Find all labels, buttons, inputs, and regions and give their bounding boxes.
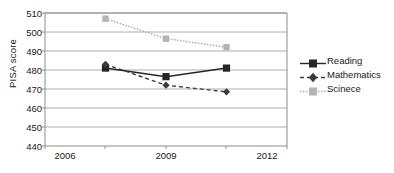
legend-label-mathematics: Mathematics [327, 69, 381, 80]
series-line [106, 19, 227, 48]
legend-label-science: Scinece [327, 83, 361, 94]
legend-marker-science-icon [300, 83, 326, 94]
legend-marker-reading-icon [300, 55, 326, 66]
chart-legend: Reading Mathematics Scinece [300, 54, 381, 95]
data-point-marker [102, 16, 108, 22]
legend-item-mathematics[interactable]: Mathematics [300, 68, 381, 81]
series-scinece [102, 16, 229, 51]
pisa-score-line-chart: PISA score 510 500 490 480 470 460 450 4… [0, 0, 394, 173]
gridlines [45, 13, 287, 127]
data-point-marker [162, 73, 169, 80]
series-reading [102, 65, 230, 81]
data-point-marker [163, 35, 169, 41]
legend-item-reading[interactable]: Reading [300, 54, 381, 67]
legend-item-science[interactable]: Scinece [300, 82, 381, 95]
data-point-marker [162, 82, 169, 89]
legend-marker-mathematics-icon [300, 69, 326, 80]
data-series-layer [102, 16, 230, 96]
data-point-marker [223, 65, 230, 72]
data-point-marker [223, 44, 229, 50]
legend-label-reading: Reading [327, 55, 362, 66]
